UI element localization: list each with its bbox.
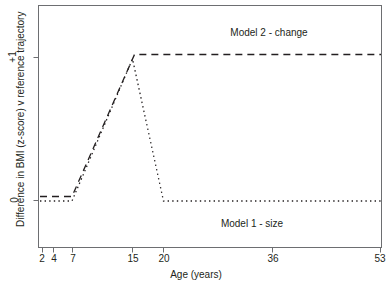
x-axis-title: Age (years) — [0, 270, 392, 280]
chart-figure: 2 4 7 15 20 36 53 +1 0 Difference in BMI… — [0, 0, 392, 289]
y-axis-ticks — [34, 58, 39, 201]
x-tick-label-36: 36 — [267, 254, 278, 264]
series-line-model-2 — [40, 55, 381, 197]
x-tick-label-15: 15 — [127, 254, 138, 264]
chart-plot-area — [0, 0, 392, 289]
x-tick-label-20: 20 — [158, 254, 169, 264]
x-tick-label-4: 4 — [51, 254, 57, 264]
annotation-model-2-change: Model 2 - change — [230, 28, 307, 38]
y-axis-title: Difference in BMI (z-score) v reference … — [16, 27, 26, 227]
plot-frame — [39, 6, 382, 248]
annotation-model-1-size: Model 1 - size — [221, 219, 283, 229]
x-tick-label-2: 2 — [39, 254, 45, 264]
x-tick-label-7: 7 — [70, 254, 76, 264]
series-line-model-1 — [40, 59, 381, 201]
x-axis-ticks — [43, 248, 381, 253]
x-tick-label-53: 53 — [374, 254, 385, 264]
